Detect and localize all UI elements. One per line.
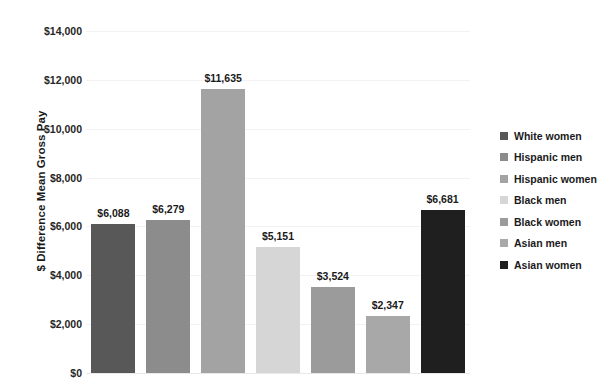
axis-baseline [86, 373, 470, 374]
bar[interactable] [311, 287, 355, 373]
bar-value-label: $6,279 [152, 203, 184, 215]
y-axis-tick-labels: $14,000$12,000$10,000$8,000$6,000$4,000$… [30, 0, 82, 390]
y-axis-tick-label: $2,000 [30, 318, 82, 330]
legend-item[interactable]: Hispanic men [500, 147, 608, 169]
bar[interactable] [421, 210, 465, 373]
legend-item[interactable]: Black men [500, 190, 608, 212]
bar-chart: $ Difference Mean Gross Pay $14,000$12,0… [0, 0, 610, 390]
bar-value-label: $6,088 [97, 207, 129, 219]
legend-color-swatch-icon [500, 153, 508, 161]
bar-group: $6,279 [146, 31, 190, 373]
y-axis-tick-label: $4,000 [30, 269, 82, 281]
bar-value-label: $2,347 [372, 299, 404, 311]
legend-color-swatch-icon [500, 196, 508, 204]
bar-group: $6,681 [421, 31, 465, 373]
chart-legend: White womenHispanic menHispanic womenBla… [500, 125, 608, 276]
y-axis-tick-label: $10,000 [30, 123, 82, 135]
legend-color-swatch-icon [500, 261, 508, 269]
bar-value-label: $6,681 [427, 193, 459, 205]
legend-item[interactable]: Asian women [500, 254, 608, 276]
bar[interactable] [256, 247, 300, 373]
legend-item-label: Black women [514, 217, 581, 228]
legend-color-swatch-icon [500, 218, 508, 226]
legend-item-label: Black men [514, 195, 567, 206]
bar-group: $6,088 [91, 31, 135, 373]
legend-item[interactable]: Hispanic women [500, 168, 608, 190]
bar-group: $5,151 [256, 31, 300, 373]
bar-group: $2,347 [366, 31, 410, 373]
y-axis-tick-label: $8,000 [30, 172, 82, 184]
bar-value-label: $5,151 [262, 230, 294, 242]
bar[interactable] [366, 316, 410, 373]
legend-color-swatch-icon [500, 239, 508, 247]
legend-color-swatch-icon [500, 175, 508, 183]
bar[interactable] [91, 224, 135, 373]
bar-group: $11,635 [201, 31, 245, 373]
legend-item-label: Asian women [514, 260, 582, 271]
legend-item-label: Hispanic women [514, 174, 597, 185]
bar-value-label: $3,524 [317, 270, 349, 282]
y-axis-tick-label: $0 [30, 367, 82, 379]
legend-item[interactable]: Asian men [500, 233, 608, 255]
legend-item-label: Asian men [514, 238, 567, 249]
legend-item[interactable]: Black women [500, 211, 608, 233]
legend-item-label: Hispanic men [514, 152, 582, 163]
bar-value-label: $11,635 [204, 72, 241, 84]
y-axis-tick-label: $14,000 [30, 25, 82, 37]
bar-group: $3,524 [311, 31, 355, 373]
bar[interactable] [201, 89, 245, 373]
bar[interactable] [146, 220, 190, 373]
y-axis-tick-label: $6,000 [30, 220, 82, 232]
y-axis-tick-label: $12,000 [30, 74, 82, 86]
bars-layer: $6,088$6,279$11,635$5,151$3,524$2,347$6,… [86, 31, 470, 373]
legend-item[interactable]: White women [500, 125, 608, 147]
legend-color-swatch-icon [500, 132, 508, 140]
legend-item-label: White women [514, 131, 582, 142]
